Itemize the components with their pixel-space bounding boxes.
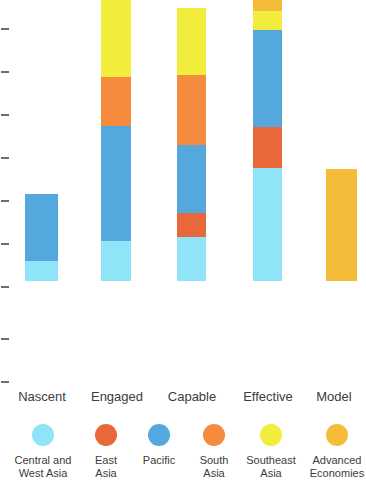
bar-segment[interactable] [101, 241, 131, 281]
legend-swatch-dot-icon [203, 424, 225, 446]
bar-group-model[interactable] [326, 169, 357, 281]
legend-swatch-dot-icon [148, 424, 170, 446]
bar-segment[interactable] [25, 261, 58, 281]
stacked-bar[interactable] [101, 0, 131, 281]
category-label-nascent: Nascent [0, 388, 84, 406]
bar-group-nascent[interactable] [25, 194, 58, 281]
chart-legend: Central and West AsiaEast AsiaPacificSou… [0, 424, 366, 500]
legend-label: Central and West Asia [4, 454, 82, 480]
bar-segment[interactable] [253, 30, 282, 127]
legend-item[interactable]: Pacific [130, 424, 188, 467]
stacked-bar-chart: NascentEngagedCapableEffectiveModel Cent… [0, 0, 366, 500]
legend-item[interactable]: Southeast Asia [240, 424, 302, 480]
stacked-bar[interactable] [253, 0, 282, 281]
bar-segment[interactable] [177, 8, 206, 75]
legend-swatch-dot-icon [260, 424, 282, 446]
legend-label: East Asia [84, 454, 128, 480]
bar-segment[interactable] [101, 77, 131, 126]
bar-segment[interactable] [326, 169, 357, 281]
stacked-bar[interactable] [326, 169, 357, 281]
bar-segment[interactable] [253, 127, 282, 168]
legend-item[interactable]: South Asia [190, 424, 238, 480]
category-label-engaged: Engaged [76, 388, 158, 406]
legend-item[interactable]: East Asia [84, 424, 128, 480]
bar-segment[interactable] [25, 194, 58, 261]
bar-segment[interactable] [253, 168, 282, 281]
legend-swatch-dot-icon [32, 424, 54, 446]
stacked-bar[interactable] [25, 194, 58, 281]
bar-segment[interactable] [253, 11, 282, 30]
bar-segment[interactable] [177, 75, 206, 145]
bar-group-effective[interactable] [253, 0, 282, 281]
bar-segment[interactable] [253, 0, 282, 11]
bar-segment[interactable] [101, 126, 131, 241]
legend-item[interactable]: Central and West Asia [4, 424, 82, 480]
legend-swatch-dot-icon [326, 424, 348, 446]
category-label-capable: Capable [152, 388, 232, 406]
bar-group-engaged[interactable] [101, 0, 131, 281]
legend-item[interactable]: Advanced Economies [304, 424, 366, 480]
stacked-bar[interactable] [177, 8, 206, 281]
bar-segment[interactable] [101, 0, 131, 77]
category-label-model: Model [302, 388, 366, 406]
bar-segment[interactable] [177, 213, 206, 237]
bar-segment[interactable] [177, 237, 206, 281]
category-label-effective: Effective [226, 388, 310, 406]
legend-label: Advanced Economies [304, 454, 366, 480]
bars-layer [0, 0, 366, 390]
legend-swatch-dot-icon [95, 424, 117, 446]
bar-segment[interactable] [177, 145, 206, 213]
legend-label: Southeast Asia [240, 454, 302, 480]
legend-label: South Asia [190, 454, 238, 480]
bar-group-capable[interactable] [177, 8, 206, 281]
legend-label: Pacific [130, 454, 188, 467]
category-axis-labels: NascentEngagedCapableEffectiveModel [0, 388, 366, 410]
plot-area [0, 0, 366, 390]
